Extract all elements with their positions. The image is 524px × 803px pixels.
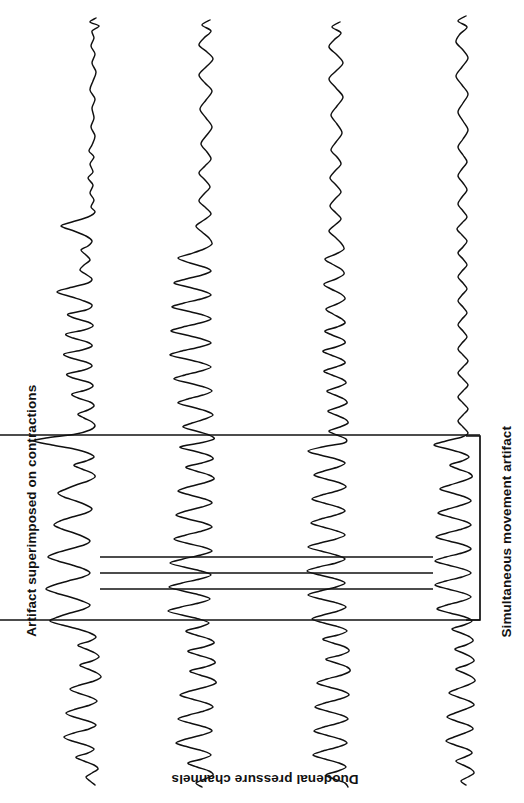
- pressure-traces: [34, 16, 475, 787]
- pressure-trace: [434, 16, 475, 785]
- bracket-outline: [466, 436, 480, 620]
- label-simultaneous-movement-artifact: Simultaneous movement artifact: [500, 412, 514, 652]
- pressure-trace: [307, 22, 350, 787]
- pressure-trace-canvas: [0, 0, 524, 803]
- pressure-trace: [168, 20, 216, 787]
- simultaneous-movement-artifact-bracket: [466, 436, 480, 620]
- pressure-trace: [34, 18, 101, 785]
- label-artifact-superimposed-on-contractions: Artifact superimposed on contractions: [25, 397, 39, 637]
- manometry-figure: Artifact superimposed on contractions Si…: [0, 0, 524, 803]
- marker-lines: [0, 435, 480, 620]
- label-duodenal-pressure-channels: Duodenal pressure channels: [110, 772, 420, 786]
